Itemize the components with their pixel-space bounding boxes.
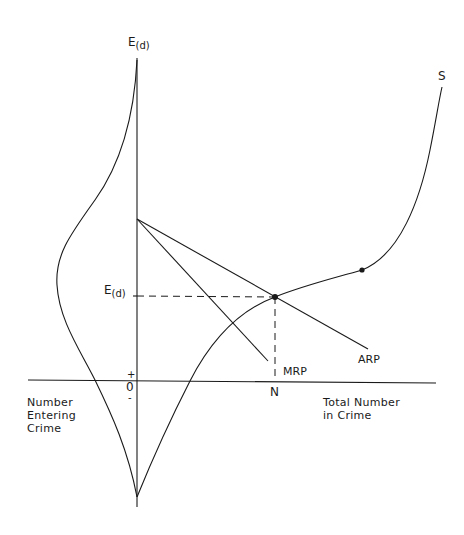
vertical-axis-label: E(d) <box>128 36 150 49</box>
s-curve <box>137 87 442 497</box>
right-axis-caption: Total Number in Crime <box>323 396 400 422</box>
ed-tick-label-main: E <box>104 283 112 297</box>
vertical-axis-label-sub: (d) <box>136 40 150 51</box>
diagram-canvas <box>0 0 464 535</box>
ed-tick-label-sub: (d) <box>112 288 126 299</box>
arp-label: ARP <box>358 353 380 366</box>
mrp-label: MRP <box>283 365 307 378</box>
ed-tick-label: E(d) <box>104 284 126 297</box>
ed-dashed-line <box>137 296 275 297</box>
minus-sign: - <box>128 391 132 404</box>
n-label: N <box>270 386 279 399</box>
horizontal-axis <box>28 380 436 383</box>
left-axis-caption: Number Entering Crime <box>27 396 76 435</box>
vertical-axis-label-main: E <box>128 35 136 49</box>
mrp-line <box>137 219 268 361</box>
inflection-point <box>359 267 364 272</box>
s-curve-label: S <box>438 70 446 83</box>
arp-line <box>137 219 368 349</box>
equilibrium-point <box>272 294 278 300</box>
